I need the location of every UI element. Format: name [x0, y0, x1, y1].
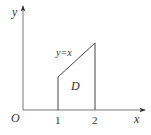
x-axis-label: x — [133, 112, 140, 126]
origin-label: O — [11, 111, 20, 125]
curve-label: y=x — [55, 47, 72, 58]
region-diagram: y x O 1 2 y=x D — [0, 0, 151, 135]
tick-2-label: 2 — [92, 114, 98, 126]
y-axis-label: y — [11, 5, 18, 19]
tick-1-label: 1 — [55, 114, 61, 126]
region-label: D — [70, 79, 80, 93]
